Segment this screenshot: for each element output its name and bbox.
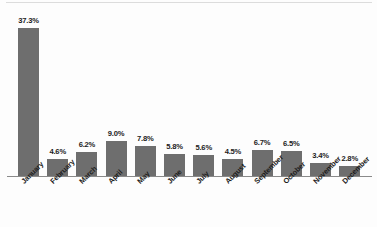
bar-value-label: 5.8%	[166, 143, 183, 151]
bar-value-label: 37.3%	[18, 17, 39, 25]
bar-value-label: 3.4%	[312, 152, 329, 160]
bar-value-label: 9.0%	[108, 130, 125, 138]
bar-value-label: 2.8%	[341, 155, 358, 163]
bar-group: 3.4%	[310, 0, 331, 177]
bar-chart: 37.3%4.6%6.2%9.0%7.8%5.8%5.6%4.5%6.7%6.5…	[0, 0, 377, 227]
bar-value-label: 5.6%	[195, 144, 212, 152]
bar-group: 37.3%	[18, 0, 39, 177]
plot-area: 37.3%4.6%6.2%9.0%7.8%5.8%5.6%4.5%6.7%6.5…	[0, 0, 377, 177]
bar-group: 9.0%	[106, 0, 127, 177]
bar-group: 7.8%	[135, 0, 156, 177]
bar-value-label: 6.5%	[283, 140, 300, 148]
bar-value-label: 6.2%	[79, 141, 96, 149]
bar-value-label: 6.7%	[254, 139, 271, 147]
bar-value-label: 4.6%	[49, 148, 66, 156]
bar-group: 5.8%	[164, 0, 185, 177]
bar-group: 6.7%	[252, 0, 273, 177]
bar-value-label: 7.8%	[137, 135, 154, 143]
x-axis-tick-labels: JanuaryFebruaryMarchAprilMayJuneJulyAugu…	[0, 177, 377, 227]
bar-group: 4.6%	[47, 0, 68, 177]
bar-group: 4.5%	[222, 0, 243, 177]
bar-group: 5.6%	[193, 0, 214, 177]
bar-group: 6.2%	[76, 0, 97, 177]
bar[interactable]	[18, 28, 39, 177]
bar-group: 2.8%	[339, 0, 360, 177]
bar-group: 6.5%	[281, 0, 302, 177]
bar-value-label: 4.5%	[225, 148, 242, 156]
